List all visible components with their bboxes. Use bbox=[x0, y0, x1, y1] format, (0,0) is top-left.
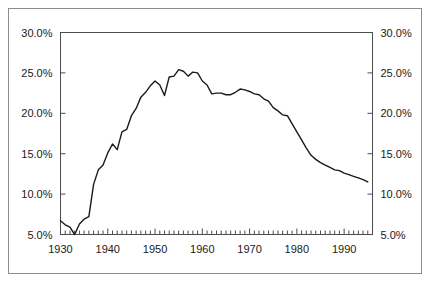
x-axis-tick-label: 1990 bbox=[332, 243, 356, 255]
series-line-union-membership-rate bbox=[61, 70, 368, 235]
y-axis-left-tick-label: 20.0% bbox=[21, 107, 52, 119]
y-axis-left-tick-label: 10.0% bbox=[21, 188, 52, 200]
y-axis-left-tick-label: 5.0% bbox=[27, 229, 52, 241]
line-chart-svg: 30.0%25.0%20.0%15.0%10.0%5.0% 30.0%25.0%… bbox=[0, 0, 432, 284]
x-axis-tick-label: 1970 bbox=[237, 243, 261, 255]
chart-figure: 30.0%25.0%20.0%15.0%10.0%5.0% 30.0%25.0%… bbox=[0, 0, 432, 284]
x-axis-tick-label: 1950 bbox=[143, 243, 167, 255]
y-axis-right-tick-label: 30.0% bbox=[381, 27, 412, 39]
y-axis-left-tick-label: 25.0% bbox=[21, 67, 52, 79]
x-axis-labels: 1930194019501960197019801990 bbox=[48, 243, 356, 255]
plot-axes-frame bbox=[61, 33, 373, 235]
plot-container: 30.0%25.0%20.0%15.0%10.0%5.0% 30.0%25.0%… bbox=[0, 0, 432, 284]
y-axis-left-ticks bbox=[61, 73, 66, 194]
y-axis-left-tick-label: 30.0% bbox=[21, 27, 52, 39]
y-axis-right-ticks bbox=[368, 73, 373, 194]
x-axis-tick-label: 1940 bbox=[96, 243, 120, 255]
y-axis-right-tick-label: 20.0% bbox=[381, 107, 412, 119]
y-axis-left-labels: 30.0%25.0%20.0%15.0%10.0%5.0% bbox=[21, 27, 52, 241]
y-axis-right-labels: 30.0%25.0%20.0%15.0%10.0%5.0% bbox=[381, 27, 412, 241]
x-axis-tick-label: 1930 bbox=[48, 243, 72, 255]
y-axis-right-tick-label: 10.0% bbox=[381, 188, 412, 200]
y-axis-right-tick-label: 5.0% bbox=[381, 229, 406, 241]
y-axis-right-tick-label: 15.0% bbox=[381, 148, 412, 160]
data-series-group bbox=[61, 70, 368, 235]
x-axis-tick-label: 1960 bbox=[190, 243, 214, 255]
x-axis-minor-ticks bbox=[65, 231, 372, 235]
y-axis-left-tick-label: 15.0% bbox=[21, 148, 52, 160]
y-axis-right-tick-label: 25.0% bbox=[381, 67, 412, 79]
x-axis-tick-label: 1980 bbox=[285, 243, 309, 255]
